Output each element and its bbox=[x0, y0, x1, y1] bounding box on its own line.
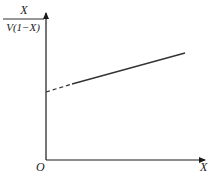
origin-label: O bbox=[36, 160, 45, 174]
dashed-extrapolation-line bbox=[46, 84, 72, 92]
y-axis-label-numerator: X bbox=[19, 3, 28, 17]
y-axis-label-denominator: V(1−X) bbox=[6, 21, 40, 34]
diagram-canvas: X V(1−X) O X bbox=[0, 0, 213, 185]
data-line bbox=[72, 53, 185, 84]
x-axis-label: X bbox=[199, 160, 208, 174]
